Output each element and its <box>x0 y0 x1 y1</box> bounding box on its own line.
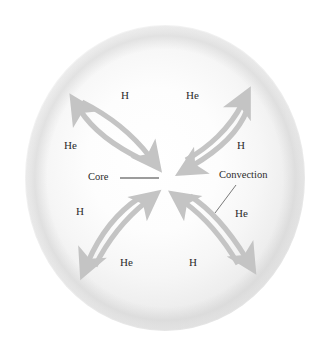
core-label: Core <box>88 172 108 183</box>
stellar-convection-diagram: Core Convection He H H He H He He H <box>0 0 325 343</box>
loop-upper-left-outer-label: He <box>64 140 77 151</box>
loop-upper-right-inner-label: He <box>186 90 199 101</box>
diagram-canvas <box>0 0 325 343</box>
convection-label: Convection <box>219 170 267 181</box>
loop-upper-right-outer-label: H <box>237 140 245 151</box>
loop-lower-right-inner-label: H <box>189 257 197 268</box>
loop-lower-right-outer-label: He <box>235 208 248 219</box>
loop-lower-left-outer-label: H <box>76 206 84 217</box>
loop-lower-left-inner-label: He <box>120 257 133 268</box>
loop-upper-left-inner-label: H <box>121 90 129 101</box>
